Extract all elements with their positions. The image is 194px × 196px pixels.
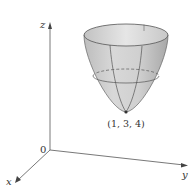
vertex-label: (1, 3, 4): [107, 118, 145, 129]
origin-label: 0: [40, 144, 46, 155]
x-axis-arrow-icon: [15, 176, 21, 183]
vertex-point: [124, 110, 127, 113]
y-axis: [50, 150, 188, 168]
paraboloid-surface: [84, 24, 168, 114]
top-rim: [84, 24, 168, 46]
z-axis-arrow-icon: [48, 22, 52, 29]
x-axis-label: x: [6, 176, 12, 187]
y-axis-label: y: [181, 169, 188, 180]
y-axis-arrow-icon: [181, 163, 188, 168]
paraboloid-diagram: z 0 y x (1, 3, 4): [0, 0, 194, 196]
z-axis-label: z: [39, 19, 46, 30]
z-axis: [48, 22, 52, 150]
